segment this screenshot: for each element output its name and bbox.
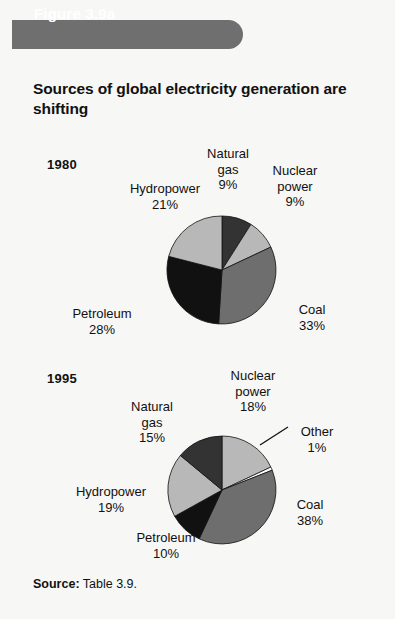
pie-label-1980-coal: Coal 33% [285,302,339,333]
pie-label-1995-coal-pct: 38% [283,513,337,529]
pie-label-1995-hydropower: Hydropower 19% [59,484,163,515]
pie-label-1995-natural-gas-line1: Natural [131,399,173,414]
chart-year-1980: 1980 [47,157,77,172]
pie-label-1980-petroleum-line1: Petroleum [72,306,131,321]
pie-label-1995-petroleum: Petroleum 10% [118,530,214,561]
pie-label-1980-coal-pct: 33% [285,318,339,334]
figure-page: Figure 3.9a Sources of global electricit… [0,0,395,619]
pie-label-1995-other-pct: 1% [286,440,348,456]
source-note: Source: Table 3.9. [33,577,137,591]
figure-title: Sources of global electricity generation… [33,79,373,119]
chart-year-1995: 1995 [47,371,77,386]
pie-label-1980-nuclear-power-line1: Nuclear [273,163,318,178]
pie-label-1980-coal-line1: Coal [299,302,326,317]
pie-label-1980-natural-gas-line2: gas [218,162,239,177]
pie-label-1980-petroleum-pct: 28% [54,322,150,338]
pie-label-1980-hydropower-pct: 21% [113,197,217,213]
pie-label-1995-other: Other 1% [286,424,348,455]
figure-banner [12,20,243,49]
pie-label-1980-nuclear-power: Nuclear power 9% [258,163,332,210]
pie-label-1980-natural-gas-line1: Natural [207,146,249,161]
pie-label-1995-hydropower-pct: 19% [59,500,163,516]
pie-label-1980-petroleum: Petroleum 28% [54,306,150,337]
pie-label-1995-natural-gas: Natural gas 15% [118,399,186,446]
pie-label-1995-nuclear-power-line1: Nuclear [231,368,276,383]
pie-label-1980-nuclear-power-pct: 9% [258,194,332,210]
pie-label-1995-nuclear-power: Nuclear power 18% [216,368,290,415]
pie-label-1980-hydropower: Hydropower 21% [113,181,217,212]
pie-label-1995-hydropower-line1: Hydropower [76,484,146,499]
pie-label-1995-nuclear-power-line2: power [235,384,270,399]
source-value: Table 3.9. [80,577,137,591]
pie-label-1995-petroleum-pct: 10% [118,546,214,562]
source-label: Source: [33,577,80,591]
pie-label-1995-petroleum-line1: Petroleum [136,530,195,545]
pie-label-1995-other-line1: Other [301,424,334,439]
pie-label-1995-natural-gas-line2: gas [142,415,163,430]
pie-label-1980-nuclear-power-line2: power [277,179,312,194]
pie-label-1995-natural-gas-pct: 15% [118,430,186,446]
figure-number-label: Figure 3.9a [34,5,115,22]
pie-label-1995-coal-line1: Coal [297,497,324,512]
pie-label-1980-hydropower-line1: Hydropower [130,181,200,196]
pie-chart-1980 [166,214,278,326]
pie-label-1995-nuclear-power-pct: 18% [216,399,290,415]
pie-label-1995-coal: Coal 38% [283,497,337,528]
